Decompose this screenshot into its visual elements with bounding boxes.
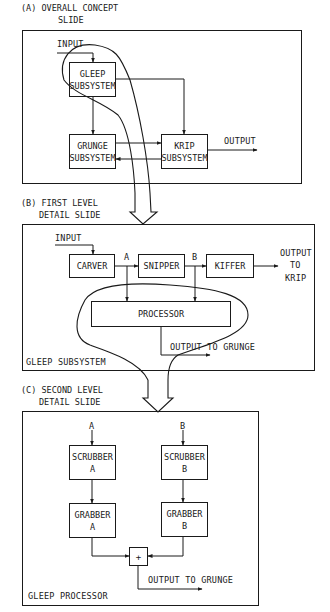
- diagram-wiring: [0, 0, 330, 612]
